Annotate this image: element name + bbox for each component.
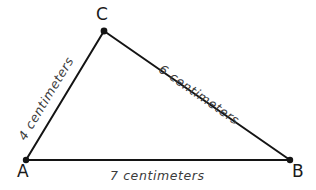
vertex-label-b: B xyxy=(292,163,304,180)
triangle-figure: A B C 7 centimeters 4 centimeters 6 cent… xyxy=(0,0,316,190)
vertex-dot-c xyxy=(101,28,108,35)
side-label-ab: 7 centimeters xyxy=(110,170,205,183)
vertex-label-c: C xyxy=(96,6,108,23)
vertex-label-a: A xyxy=(17,163,29,180)
